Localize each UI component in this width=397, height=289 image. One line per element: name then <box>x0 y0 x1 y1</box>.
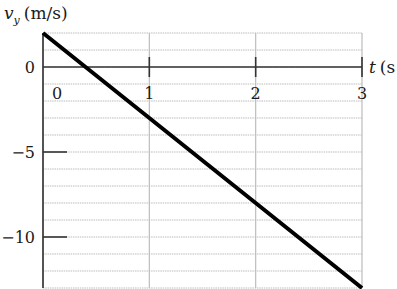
y-tick-label: 0 <box>25 58 35 77</box>
x-tick-label: 2 <box>251 84 261 103</box>
velocity-time-chart: 01230−5−10 vy(m/s) t(s <box>0 0 397 289</box>
velocity-line <box>43 33 362 288</box>
x-tick-label: 1 <box>144 84 154 103</box>
x-tick-label: 3 <box>357 84 367 103</box>
y-tick-label: −5 <box>11 143 35 162</box>
y-axis-label: vy(m/s) <box>4 3 68 27</box>
x-axis-label: t(s <box>369 57 395 77</box>
y-tick-label: −10 <box>1 228 35 247</box>
x-tick-label: 0 <box>52 84 62 103</box>
data-series <box>43 33 362 288</box>
axis-labels: vy(m/s) t(s <box>4 3 395 77</box>
